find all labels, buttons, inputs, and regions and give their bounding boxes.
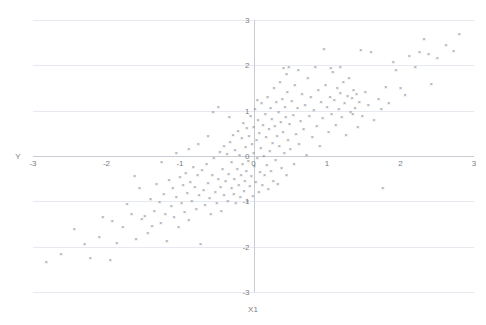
scatter-point: ×: [360, 114, 365, 119]
scatter-point: ×: [271, 179, 276, 184]
scatter-point: ×: [257, 131, 262, 136]
scatter-point: ×: [444, 43, 449, 48]
scatter-chart: ××××××××××××××××××××××××××××××××××××××××…: [0, 0, 486, 325]
scatter-point: ×: [108, 258, 113, 263]
scatter-point: ×: [191, 165, 196, 170]
scatter-point: ×: [164, 239, 169, 244]
scatter-point: ×: [229, 160, 234, 165]
scatter-point: ×: [363, 90, 368, 95]
plot-area: ××××××××××××××××××××××××××××××××××××××××…: [33, 20, 474, 292]
scatter-point: ×: [200, 168, 205, 173]
scatter-point: ×: [267, 149, 272, 154]
scatter-point: ×: [186, 218, 191, 223]
scatter-point: ×: [192, 185, 197, 190]
scatter-point: ×: [417, 50, 422, 55]
scatter-point: ×: [451, 49, 456, 54]
scatter-point: ×: [239, 136, 244, 141]
scatter-point: ×: [266, 187, 271, 192]
scatter-point: ×: [202, 203, 207, 208]
scatter-point: ×: [394, 68, 399, 73]
scatter-point: ×: [240, 162, 245, 167]
scatter-point: ×: [319, 100, 324, 105]
scatter-point: ×: [125, 202, 130, 207]
scatter-point: ×: [345, 94, 350, 99]
scatter-point: ×: [218, 185, 223, 190]
y-tick-label: 3: [245, 16, 249, 25]
scatter-point: ×: [457, 32, 462, 37]
scatter-point: ×: [355, 125, 360, 130]
scatter-point: ×: [244, 169, 249, 174]
scatter-point: ×: [223, 179, 228, 184]
scatter-point: ×: [220, 167, 225, 172]
scatter-point: ×: [150, 224, 155, 229]
scatter-point: ×: [100, 215, 105, 220]
scatter-point: ×: [270, 141, 275, 146]
scatter-point: ×: [435, 56, 440, 61]
scatter-point: ×: [329, 112, 334, 117]
scatter-point: ×: [285, 90, 290, 95]
scatter-point: ×: [227, 140, 232, 145]
scatter-point: ×: [301, 127, 306, 132]
x-tick-label: 1: [325, 159, 329, 168]
scatter-point: ×: [297, 142, 302, 147]
scatter-point: ×: [426, 52, 431, 57]
scatter-point: ×: [272, 86, 277, 91]
scatter-point: ×: [152, 209, 157, 214]
scatter-point: ×: [188, 180, 193, 185]
scatter-point: ×: [350, 112, 355, 117]
scatter-point: ×: [402, 93, 407, 98]
scatter-point: ×: [114, 241, 119, 246]
scatter-point: ×: [194, 207, 199, 212]
scatter-point: ×: [344, 133, 349, 138]
scatter-point: ×: [231, 192, 236, 197]
scatter-point: ×: [229, 186, 234, 191]
scatter-point: ×: [308, 95, 313, 100]
scatter-point: ×: [183, 171, 188, 176]
scatter-point: ×: [247, 134, 252, 139]
scatter-point: ×: [325, 105, 330, 110]
scatter-point: ×: [327, 95, 332, 100]
x-tick-label: -3: [29, 159, 36, 168]
scatter-point: ×: [217, 150, 222, 155]
scatter-point: ×: [332, 98, 337, 103]
scatter-point: ×: [44, 260, 49, 265]
scatter-point: ×: [216, 177, 221, 182]
scatter-point: ×: [227, 115, 232, 120]
x-tick-label: -1: [176, 159, 183, 168]
scatter-point: ×: [281, 66, 286, 71]
scatter-point: ×: [205, 134, 210, 139]
x-tick-label: 3: [472, 159, 476, 168]
scatter-point: ×: [265, 95, 270, 100]
scatter-point: ×: [347, 76, 352, 81]
scatter-point: ×: [230, 133, 235, 138]
scatter-point: ×: [58, 252, 63, 257]
y-axis-title: Y: [15, 152, 20, 161]
scatter-point: ×: [322, 47, 327, 52]
scatter-point: ×: [163, 212, 168, 217]
scatter-point: ×: [260, 183, 265, 188]
scatter-point: ×: [247, 184, 252, 189]
scatter-point: ×: [398, 86, 403, 91]
scatter-point: ×: [196, 142, 201, 147]
scatter-point: ×: [195, 173, 200, 178]
scatter-point: ×: [279, 166, 284, 171]
scatter-point: ×: [129, 212, 134, 217]
scatter-point: ×: [243, 145, 248, 150]
scatter-point: ×: [226, 172, 231, 177]
scatter-point: ×: [241, 121, 246, 126]
scatter-point: ×: [283, 105, 288, 110]
scatter-point: ×: [176, 225, 181, 230]
scatter-point: ×: [205, 181, 210, 186]
scatter-point: ×: [258, 146, 263, 151]
scatter-point: ×: [159, 160, 164, 165]
scatter-point: ×: [222, 193, 227, 198]
scatter-point: ×: [283, 115, 288, 120]
scatter-point: ×: [219, 209, 224, 214]
x-tick-label: -2: [103, 159, 110, 168]
scatter-point: ×: [269, 169, 274, 174]
scatter-point: ×: [262, 173, 267, 178]
scatter-point: ×: [298, 119, 303, 124]
scatter-point: ×: [289, 99, 294, 104]
scatter-point: ×: [235, 167, 240, 172]
scatter-point: ×: [72, 227, 77, 232]
